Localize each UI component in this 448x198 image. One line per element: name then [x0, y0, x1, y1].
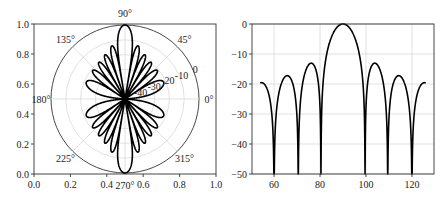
y-tick-label: 0	[242, 19, 247, 30]
x-tick-label: 0.0	[28, 179, 41, 190]
x-tick-label: 1.0	[210, 179, 223, 190]
x-tick-label: 0.8	[173, 179, 186, 190]
theta-tick-label: 0°	[205, 94, 214, 105]
y-tick-label: −10	[231, 49, 247, 60]
polar-pattern-plot: 0.00.20.40.60.81.00.00.20.40.60.81.0 0°4…	[17, 8, 223, 191]
pattern-line	[260, 24, 425, 174]
y-tick-label: 0.6	[17, 79, 30, 90]
radial-tick-label: -20	[161, 75, 174, 86]
x-tick-label: 0.2	[64, 179, 77, 190]
y-tick-label: −20	[231, 79, 247, 90]
y-tick-label: −30	[231, 109, 247, 120]
theta-tick-label: 45°	[177, 34, 191, 45]
x-tick-label: 60	[269, 179, 279, 190]
axes-frame: 60801001200−10−20−30−40−50	[231, 19, 434, 191]
x-tick-label: 120	[404, 179, 419, 190]
theta-tick-label: 270°	[116, 180, 135, 191]
y-tick-label: −40	[231, 139, 247, 150]
y-tick-label: 1.0	[17, 19, 30, 30]
grid	[252, 24, 434, 174]
radial-tick-label: 0	[193, 64, 198, 75]
theta-tick-label: 315°	[175, 153, 194, 164]
theta-tick-label: 225°	[56, 153, 75, 164]
theta-tick-label: 90°	[118, 8, 132, 19]
radial-tick-label: -40	[134, 87, 147, 98]
axes-frame	[252, 24, 434, 174]
cartesian-pattern-plot: 60801001200−10−20−30−40−50	[231, 19, 434, 191]
y-tick-label: 0.8	[17, 49, 30, 60]
radial-tick-label: -10	[175, 70, 188, 81]
x-tick-label: 100	[358, 179, 373, 190]
theta-tick-label: 180°	[32, 94, 51, 105]
y-tick-label: 0.2	[17, 139, 30, 150]
x-tick-label: 0.4	[101, 179, 114, 190]
y-tick-label: 0.0	[17, 169, 30, 180]
figure: 0.00.20.40.60.81.00.00.20.40.60.81.0 0°4…	[0, 0, 448, 198]
y-tick-label: 0.4	[17, 109, 30, 120]
x-tick-label: 80	[315, 179, 325, 190]
y-tick-label: −50	[231, 169, 247, 180]
x-tick-label: 0.6	[137, 179, 150, 190]
radial-tick-label: -30	[148, 81, 161, 92]
theta-tick-label: 135°	[56, 34, 75, 45]
